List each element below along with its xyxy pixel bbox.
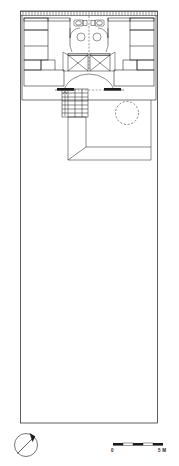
north-arrow (15, 434, 38, 457)
room-e (130, 30, 154, 60)
veranda-slab-right (104, 88, 121, 91)
staircase (62, 89, 88, 117)
toilet-fixture-left (74, 20, 83, 26)
room-nw (24, 18, 48, 30)
room-w (24, 30, 48, 60)
bed-left (68, 54, 88, 72)
wash-basin-left (77, 33, 85, 41)
scale-bar-end-label: 5 M (158, 449, 166, 454)
east-partition (123, 60, 137, 70)
door-swing-left (70, 28, 80, 38)
west-corridor-shelf (48, 18, 70, 21)
toilet-fixture-right (95, 20, 104, 26)
scale-bar (113, 443, 163, 446)
east-corridor-shelf (108, 18, 130, 21)
central-core-walls (70, 16, 108, 72)
room-ne (130, 18, 154, 30)
veranda-slab-left (57, 88, 74, 91)
room-sw (24, 60, 64, 86)
cistern-right (91, 21, 95, 26)
room-se (114, 60, 154, 86)
stair-arrow (63, 91, 67, 116)
bed-right (90, 54, 110, 72)
scale-bar-start-label: 0 (111, 449, 114, 454)
west-partition (41, 60, 55, 70)
arched-threshold (64, 74, 114, 90)
site-boundary (21, 11, 158, 423)
plan-drawing (0, 0, 179, 466)
floor-plan-figure: 0 5 M (0, 0, 179, 466)
wash-basin-right (93, 33, 101, 41)
cistern-left (83, 21, 87, 26)
north-wall (21, 12, 158, 16)
door-swing-right (98, 28, 108, 38)
round-table-dashed (116, 102, 139, 125)
